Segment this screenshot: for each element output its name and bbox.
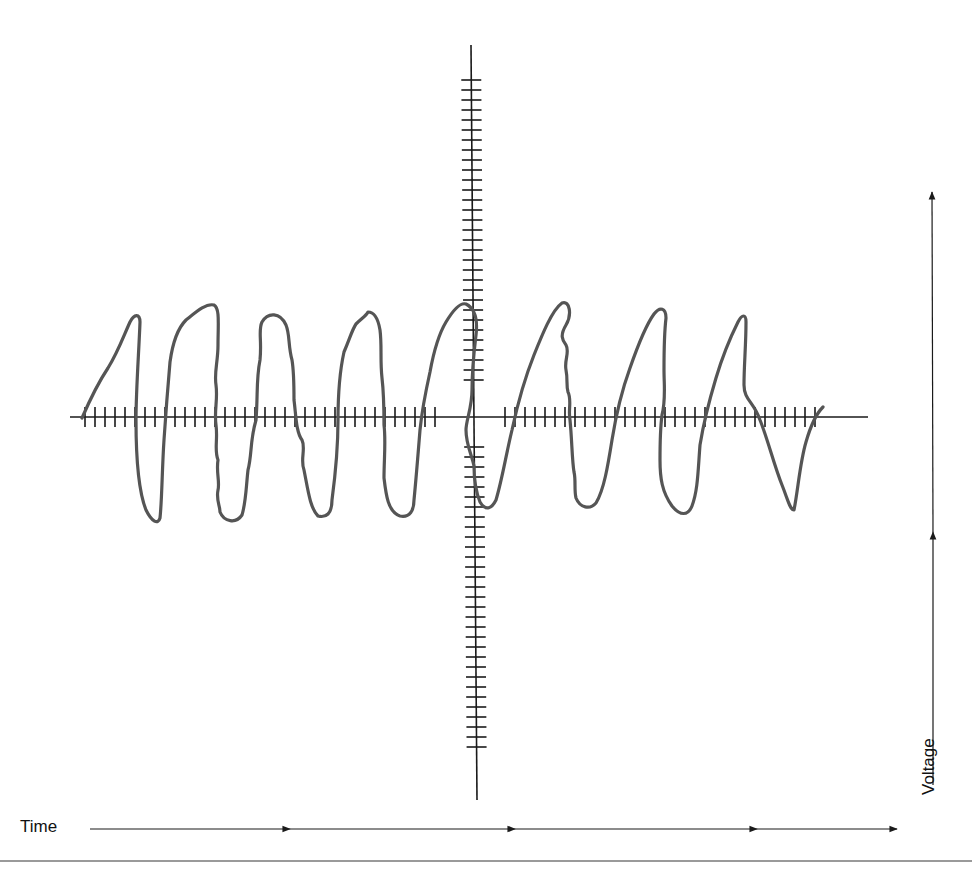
voltage-axis [461,45,486,800]
waveform-trace [82,303,823,522]
waveform-diagram: Time Voltage [0,0,972,876]
voltage-arrow [932,192,933,785]
time-axis-label: Time [20,817,57,837]
bottom-divider [0,860,972,862]
voltage-axis-label: Voltage [919,738,939,795]
